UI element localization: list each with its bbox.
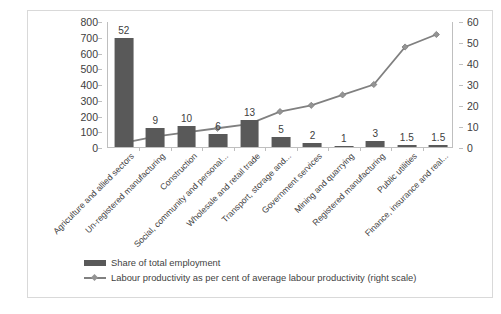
bar-data-label: 13 <box>244 107 255 118</box>
bar-slot: 13 <box>234 22 265 147</box>
bar-share-of-total-employment <box>240 120 259 147</box>
legend-label-labour-productivity: Labour productivity as per cent of avera… <box>111 272 416 283</box>
bar-share-of-total-employment <box>334 146 353 147</box>
left-axis-tick-mark <box>98 148 102 149</box>
bar-data-label: 52 <box>118 25 129 36</box>
right-axis-tick-label: 20 <box>467 100 479 112</box>
right-axis-tick-mark <box>459 22 463 23</box>
left-axis-tick-mark <box>98 69 102 70</box>
x-axis-category-labels: Agriculture and allied sectorsUn-registe… <box>107 149 453 249</box>
left-axis-tick-label: 400 <box>80 79 98 91</box>
right-axis-tick-label: 50 <box>467 37 479 49</box>
right-axis-tick-label: 60 <box>467 16 479 28</box>
bar-data-label: 1 <box>341 133 347 144</box>
bar-data-label: 3 <box>373 128 379 139</box>
right-axis-tick-mark <box>459 64 463 65</box>
bar-slot: 52 <box>108 22 139 147</box>
bar-data-label: 9 <box>152 115 158 126</box>
left-axis-tick-mark <box>98 54 102 55</box>
bar-share-of-total-employment <box>366 141 385 147</box>
bar-slot: 2 <box>297 22 328 147</box>
left-axis: 0100200300400500600700800 <box>58 22 102 148</box>
left-axis-tick-label: 700 <box>80 32 98 44</box>
left-axis-tick-mark <box>98 85 102 86</box>
left-axis-tick-label: 500 <box>80 63 98 75</box>
left-axis-tick-label: 200 <box>80 111 98 123</box>
right-axis-tick-mark <box>459 106 463 107</box>
plot-area: 5291061352131.51.5 <box>107 22 453 148</box>
right-axis-tick-label: 10 <box>467 121 479 133</box>
right-axis: 0102030405060 <box>458 22 501 148</box>
bar-data-label: 2 <box>310 130 316 141</box>
left-axis-tick-mark <box>98 22 102 23</box>
chart-legend: Share of total employment Labour product… <box>84 255 484 285</box>
left-axis-tick-label: 600 <box>80 48 98 60</box>
right-axis-tick-label: 30 <box>467 79 479 91</box>
bar-data-label: 1.5 <box>400 132 414 143</box>
bar-data-label: 1.5 <box>431 132 445 143</box>
right-axis-tick-label: 40 <box>467 58 479 70</box>
bar-share-of-total-employment <box>272 137 291 147</box>
line-diamond-swatch-icon <box>84 273 106 282</box>
bar-swatch-icon <box>84 260 106 266</box>
bar-share-of-total-employment <box>146 128 165 147</box>
chart-frame: 0100200300400500600700800 0102030405060 … <box>27 10 493 298</box>
bar-slot: 3 <box>360 22 391 147</box>
left-axis-tick-mark <box>98 38 102 39</box>
bar-share-of-total-employment <box>397 145 416 147</box>
bar-data-label: 5 <box>278 124 284 135</box>
legend-item-labour-productivity: Labour productivity as per cent of avera… <box>84 270 484 285</box>
legend-label-share-of-total-employment: Share of total employment <box>111 257 220 268</box>
right-axis-tick-mark <box>459 148 463 149</box>
bar-share-of-total-employment <box>114 38 133 147</box>
bar-slot: 5 <box>265 22 296 147</box>
bar-share-of-total-employment <box>303 143 322 147</box>
right-axis-tick-mark <box>459 127 463 128</box>
bar-share-of-total-employment <box>429 145 448 147</box>
left-axis-tick-mark <box>98 101 102 102</box>
bar-slot: 10 <box>171 22 202 147</box>
bar-slot: 6 <box>202 22 233 147</box>
bar-share-of-total-employment <box>209 134 228 147</box>
bar-data-label: 10 <box>181 113 192 124</box>
left-axis-tick-mark <box>98 117 102 118</box>
right-axis-tick-mark <box>459 85 463 86</box>
left-axis-tick-label: 300 <box>80 95 98 107</box>
legend-item-share-of-total-employment: Share of total employment <box>84 255 484 270</box>
bar-slot: 1.5 <box>423 22 454 147</box>
right-axis-tick-label: 0 <box>467 142 473 154</box>
bar-share-of-total-employment <box>177 126 196 147</box>
left-axis-tick-label: 100 <box>80 126 98 138</box>
bar-data-label: 6 <box>215 121 221 132</box>
bar-slot: 9 <box>139 22 170 147</box>
right-axis-tick-mark <box>459 43 463 44</box>
bar-slot: 1.5 <box>391 22 422 147</box>
bar-slot: 1 <box>328 22 359 147</box>
left-axis-tick-label: 800 <box>80 16 98 28</box>
left-axis-tick-mark <box>98 132 102 133</box>
